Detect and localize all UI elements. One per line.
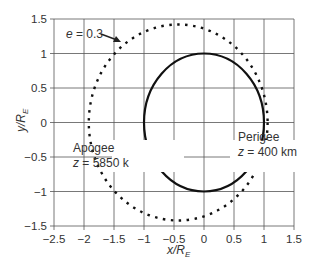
x-axis-label: x/RE: [166, 243, 191, 259]
x-tick-label: 0.5: [226, 233, 242, 245]
x-tick-label: 0: [201, 233, 207, 245]
x-tick-label: −2: [77, 233, 90, 245]
y-tick-label: 1.5: [31, 13, 47, 25]
apogee-altitude: z = 5850 k: [72, 156, 130, 170]
grid-lines: [54, 19, 294, 226]
tick-labels: −2.5−2−1.5−1−0.500.511.51.510.50−0.5−1−1…: [24, 13, 302, 245]
y-tick-label: 0: [41, 117, 47, 129]
y-tick-label: −1.5: [24, 220, 47, 232]
y-axis-label: y/RE: [14, 108, 30, 133]
y-tick-label: 1: [41, 48, 47, 60]
x-tick-label: −2.5: [43, 233, 66, 245]
apogee-label: Apogee: [73, 141, 115, 155]
x-tick-label: −1: [137, 233, 150, 245]
perigee-altitude: z = 400 km: [237, 145, 297, 159]
eccentricity-label: e = 0.3: [66, 27, 103, 41]
x-tick-label: 1.5: [286, 233, 302, 245]
y-tick-label: −1: [34, 186, 47, 198]
y-tick-label: 0.5: [31, 82, 47, 94]
perigee-label: Perigee: [238, 130, 280, 144]
y-tick-label: −0.5: [24, 151, 47, 163]
x-tick-label: −1.5: [103, 233, 126, 245]
x-tick-label: 1: [261, 233, 267, 245]
axes: [50, 19, 294, 230]
orbit-chart: −2.5−2−1.5−1−0.500.511.51.510.50−0.5−1−1…: [0, 0, 317, 273]
